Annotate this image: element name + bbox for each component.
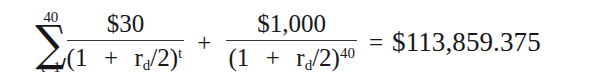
second-fraction-denominator: (1 + rd/2)40 <box>226 41 357 73</box>
first-den-exponent: t <box>178 45 182 61</box>
summation-operator: 40 ∑ t=1 <box>34 10 68 75</box>
second-den-operator: + <box>266 44 280 71</box>
first-den-operator: + <box>104 44 118 71</box>
second-den-divisor: /2) <box>312 44 340 71</box>
first-den-divisor: /2) <box>150 44 178 71</box>
second-den-exponent: 40 <box>340 45 355 61</box>
second-den-open: (1 <box>228 44 249 71</box>
first-den-open: (1 <box>67 44 88 71</box>
equation-expression: 40 ∑ t=1 $30 (1 + rd/2)t + $1,000 (1 <box>34 0 609 83</box>
first-fraction: $30 (1 + rd/2)t <box>67 10 185 73</box>
second-fraction: $1,000 (1 + rd/2)40 <box>226 10 357 73</box>
summation-sigma-icon: ∑ <box>35 22 66 63</box>
second-den-rate-subscript: d <box>305 57 313 73</box>
second-den-rate: rd <box>296 44 312 71</box>
first-den-rate-subscript: d <box>143 57 151 73</box>
first-den-rate-base: r <box>135 44 143 71</box>
first-fraction-denominator: (1 + rd/2)t <box>67 41 185 73</box>
first-fraction-numerator: $30 <box>101 10 151 40</box>
plus-operator: + <box>184 29 224 57</box>
second-fraction-numerator: $1,000 <box>251 10 332 40</box>
result-value: $113,859.375 <box>392 27 541 58</box>
first-den-rate: rd <box>135 44 151 71</box>
equation-figure: 40 ∑ t=1 $30 (1 + rd/2)t + $1,000 (1 <box>0 0 609 83</box>
equals-operator: = <box>357 29 392 57</box>
second-den-rate-base: r <box>296 44 304 71</box>
